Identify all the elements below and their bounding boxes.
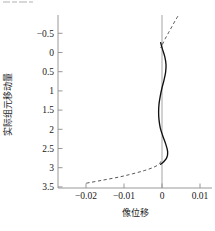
axes-frame [58,15,212,188]
y-axis-title: 实际组元移动量 [2,73,13,136]
y-tick-label: −0.5 [37,29,54,39]
x-tick-label: 0 [160,191,165,201]
solid-curve [159,43,168,165]
x-axis-title: 像位移 [122,207,149,218]
y-tick-label: 1.5 [42,105,54,115]
x-tick-label: 0.01 [192,191,209,201]
chart-figure: −0.5 0 0.5 1 1.5 2 2.5 3 3.5 −0.02 −0.01… [0,0,215,231]
y-tick-label: 2 [49,125,54,135]
top-edge-artifact [3,1,33,3]
y-tick-label: 0.5 [42,67,54,77]
y-tick-label: 3 [49,163,54,173]
dashed-curve [86,16,178,183]
y-tick-label: 3.5 [42,182,54,192]
data-series-group [86,16,178,183]
y-tick-label: 0 [49,48,54,58]
y-axis-ticks [58,33,63,187]
chart-canvas: −0.5 0 0.5 1 1.5 2 2.5 3 3.5 −0.02 −0.01… [0,0,215,231]
y-axis-tick-labels: −0.5 0 0.5 1 1.5 2 2.5 3 3.5 [37,29,54,193]
x-axis-ticks [86,184,200,189]
y-tick-label: 2.5 [42,144,54,154]
x-tick-label: −0.02 [75,191,97,201]
y-tick-label: 1 [49,86,54,96]
x-axis-tick-labels: −0.02 −0.01 0 0.01 [75,191,209,201]
x-tick-label: −0.01 [113,191,135,201]
